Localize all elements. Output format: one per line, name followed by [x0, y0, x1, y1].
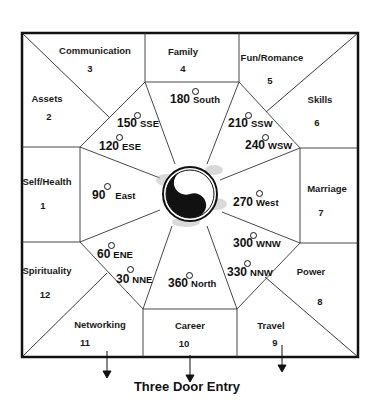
degree-circle-icon: [244, 260, 251, 267]
three-door-entry-title: Three Door Entry: [134, 379, 240, 394]
area-label-power: Power: [297, 266, 326, 277]
degree-circle-icon: [245, 112, 252, 119]
direction-ene: 60ENE: [97, 247, 133, 261]
area-number-travel: 9: [272, 337, 277, 348]
area-label-networking: Networking: [74, 319, 126, 330]
degree-circle-icon: [256, 190, 263, 197]
area-label-family: Family: [168, 46, 198, 57]
area-number-career: 10: [179, 338, 190, 349]
area-label-skills: Skills: [308, 94, 333, 105]
degree-circle-icon: [192, 88, 199, 95]
direction-east: 90East: [92, 188, 135, 202]
area-label-assets: Assets: [31, 93, 62, 104]
area-number-marriage: 7: [318, 207, 323, 218]
area-label-career: Career: [175, 320, 205, 331]
degree-circle-icon: [186, 272, 193, 279]
area-number-fun-romance: 5: [267, 75, 272, 86]
direction-ese: 120ESE: [99, 139, 141, 153]
direction-wnw: 300WNW: [233, 236, 281, 250]
direction-wsw: 240WSW: [245, 138, 292, 152]
direction-west: 270West: [233, 195, 279, 209]
degree-circle-icon: [116, 134, 123, 141]
degree-circle-icon: [134, 112, 141, 119]
area-number-networking: 11: [80, 337, 90, 348]
area-label-marriage: Marriage: [307, 183, 347, 194]
direction-north: 360North: [168, 276, 216, 290]
degree-circle-icon: [127, 266, 134, 273]
area-label-communication: Communication: [59, 45, 131, 56]
area-label-self-health: Self/Health: [22, 176, 71, 187]
area-label-spirituality: Spirituality: [22, 265, 71, 276]
entry-arrows: [103, 345, 286, 382]
direction-nnw: 330NNW: [227, 265, 273, 279]
area-number-spirituality: 12: [40, 289, 51, 300]
area-number-skills: 6: [314, 117, 319, 128]
area-number-assets: 2: [46, 111, 51, 122]
area-number-communication: 3: [87, 63, 92, 74]
area-number-self-health: 1: [40, 200, 45, 211]
degree-circle-icon: [104, 183, 111, 190]
area-label-travel: Travel: [257, 320, 284, 331]
area-number-family: 4: [180, 63, 185, 74]
direction-nne: 30NNE: [116, 272, 152, 286]
degree-circle-icon: [108, 242, 115, 249]
area-number-power: 8: [317, 296, 322, 307]
degree-circle-icon: [262, 134, 269, 141]
area-label-fun-romance: Fun/Romance: [241, 52, 304, 63]
degree-circle-icon: [250, 232, 257, 239]
